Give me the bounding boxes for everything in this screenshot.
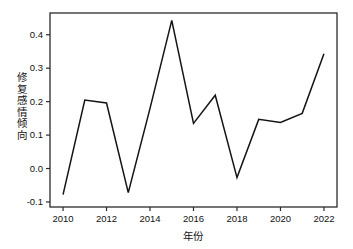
x-tick-label: 2014 bbox=[139, 213, 160, 224]
y-tick-label: -0.1 bbox=[27, 196, 43, 207]
y-tick-label: 0.3 bbox=[30, 62, 43, 73]
x-tick-label: 2012 bbox=[96, 213, 117, 224]
y-axis-title: 修复感情倾向 bbox=[17, 71, 28, 141]
chart-container: -0.10.00.10.20.30.4 20102012201420162018… bbox=[0, 0, 353, 249]
chart-background bbox=[0, 0, 353, 249]
y-tick-label: 0.4 bbox=[30, 29, 43, 40]
line-chart: -0.10.00.10.20.30.4 20102012201420162018… bbox=[0, 0, 353, 249]
y-tick-label: 0.1 bbox=[30, 129, 43, 140]
y-tick-label: 0.0 bbox=[30, 163, 43, 174]
x-tick-label: 2016 bbox=[183, 213, 204, 224]
y-tick-label: 0.2 bbox=[30, 96, 43, 107]
x-axis-title: 年份 bbox=[183, 230, 204, 242]
x-tick-label: 2018 bbox=[226, 213, 247, 224]
x-tick-label: 2020 bbox=[270, 213, 291, 224]
x-tick-label: 2010 bbox=[52, 213, 73, 224]
x-tick-label: 2022 bbox=[313, 213, 334, 224]
